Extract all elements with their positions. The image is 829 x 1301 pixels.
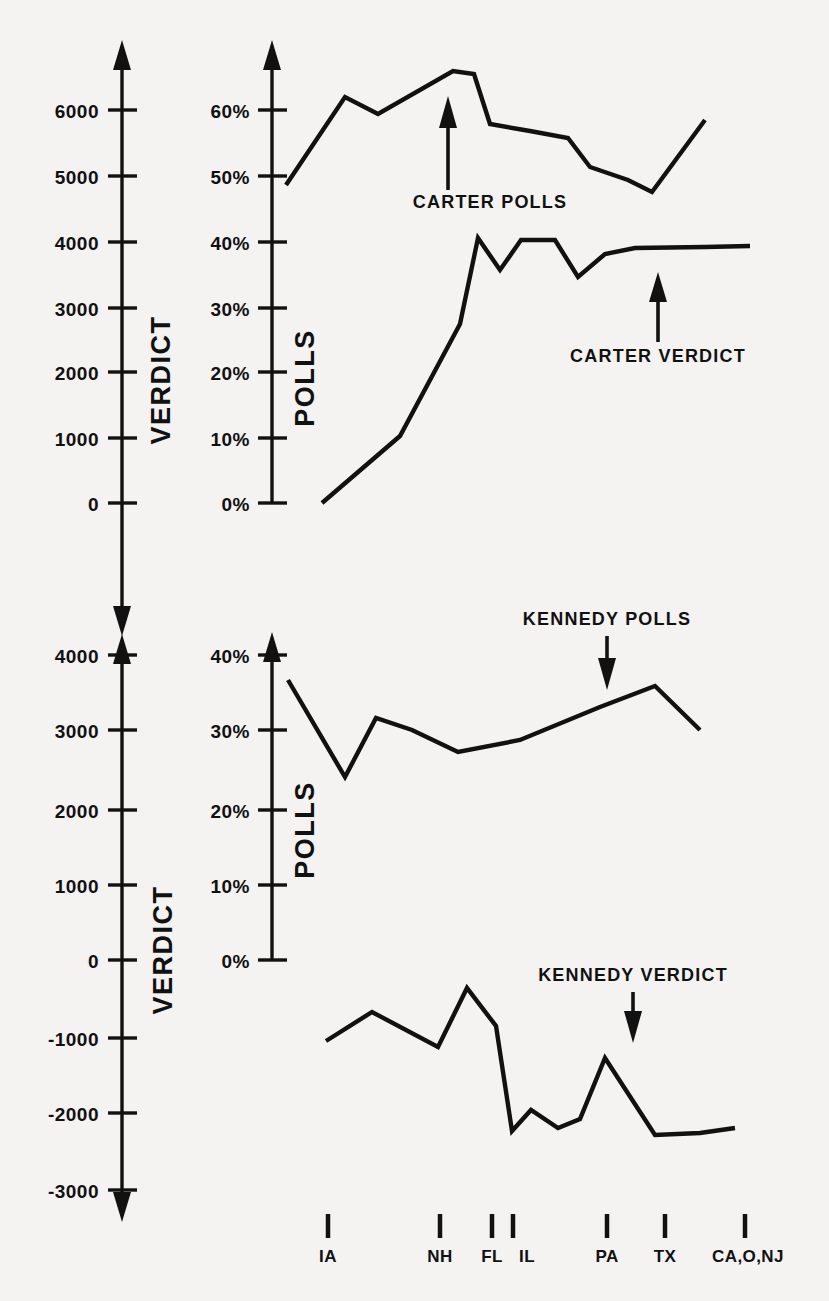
top-verdict-axis: 6000 5000 4000 3000 2000 1000 0 VERDICT <box>55 40 176 636</box>
top-polls-axis-title: POLLS <box>290 329 320 427</box>
x-label-pa: PA <box>595 1247 618 1266</box>
top-polls-tick-0: 0% <box>222 494 250 515</box>
x-label-tx: TX <box>654 1247 677 1266</box>
carter-polls-line <box>286 71 705 192</box>
top-verdict-tick-2000: 2000 <box>55 363 99 384</box>
bottom-verdict-tick-1000: 1000 <box>55 876 99 897</box>
annotation-kennedy-verdict: KENNEDY VERDICT <box>538 965 728 1043</box>
bottom-polls-tick-40: 40% <box>210 646 250 667</box>
annotation-carter-verdict-label: CARTER VERDICT <box>570 346 746 366</box>
bottom-verdict-tick-neg2000: -2000 <box>48 1104 99 1125</box>
top-verdict-tick-1000: 1000 <box>55 429 99 450</box>
top-verdict-tick-3000: 3000 <box>55 299 99 320</box>
top-verdict-tick-4000: 4000 <box>55 233 99 254</box>
x-label-ca-o-nj: CA,O,NJ <box>712 1247 784 1266</box>
top-verdict-axis-title: VERDICT <box>146 315 176 444</box>
x-axis-labels: IA NH FL IL PA TX CA,O,NJ <box>319 1247 784 1266</box>
bottom-verdict-tick-4000: 4000 <box>55 646 99 667</box>
x-label-ia: IA <box>319 1247 337 1266</box>
annotation-carter-polls: CARTER POLLS <box>413 96 567 212</box>
top-verdict-tick-0: 0 <box>88 494 99 515</box>
bottom-polls-axis: 40% 30% 20% 10% 0% POLLS <box>210 632 320 972</box>
bottom-verdict-tick-neg1000: -1000 <box>48 1029 99 1050</box>
bottom-polls-tick-10: 10% <box>210 876 250 897</box>
x-label-il: IL <box>519 1247 535 1266</box>
top-polls-tick-40: 40% <box>210 233 250 254</box>
bottom-verdict-tick-0: 0 <box>88 951 99 972</box>
top-polls-tick-60: 60% <box>210 101 250 122</box>
x-label-nh: NH <box>427 1247 452 1266</box>
top-polls-axis: 60% 50% 40% 30% 20% 10% 0% POLLS <box>210 40 320 515</box>
top-polls-tick-30: 30% <box>210 299 250 320</box>
kennedy-verdict-line <box>326 988 735 1135</box>
top-verdict-tick-6000: 6000 <box>55 101 99 122</box>
bottom-polls-axis-title: POLLS <box>290 781 320 879</box>
kennedy-polls-line <box>288 680 700 777</box>
bottom-polls-tick-0: 0% <box>222 951 250 972</box>
bottom-verdict-tick-2000: 2000 <box>55 801 99 822</box>
top-polls-tick-50: 50% <box>210 167 250 188</box>
top-verdict-tick-5000: 5000 <box>55 167 99 188</box>
bottom-verdict-axis: 4000 3000 2000 1000 0 -1000 -2000 -3000 … <box>48 634 178 1222</box>
top-polls-tick-10: 10% <box>210 429 250 450</box>
annotation-kennedy-polls-label: KENNEDY POLLS <box>523 609 691 629</box>
x-axis-ticks <box>328 1214 745 1238</box>
figure-container: 6000 5000 4000 3000 2000 1000 0 VERDICT … <box>0 0 829 1301</box>
chart-svg: 6000 5000 4000 3000 2000 1000 0 VERDICT … <box>0 0 829 1301</box>
carter-verdict-line <box>322 238 750 503</box>
annotation-carter-verdict: CARTER VERDICT <box>570 272 746 366</box>
annotation-kennedy-polls: KENNEDY POLLS <box>523 609 691 690</box>
annotation-kennedy-verdict-label: KENNEDY VERDICT <box>538 965 728 985</box>
bottom-verdict-axis-title: VERDICT <box>148 885 178 1014</box>
top-polls-tick-20: 20% <box>210 363 250 384</box>
bottom-polls-tick-20: 20% <box>210 801 250 822</box>
x-label-fl: FL <box>481 1247 503 1266</box>
annotation-carter-polls-label: CARTER POLLS <box>413 192 567 212</box>
bottom-polls-tick-30: 30% <box>210 721 250 742</box>
bottom-verdict-tick-3000: 3000 <box>55 721 99 742</box>
bottom-verdict-tick-neg3000: -3000 <box>48 1181 99 1202</box>
